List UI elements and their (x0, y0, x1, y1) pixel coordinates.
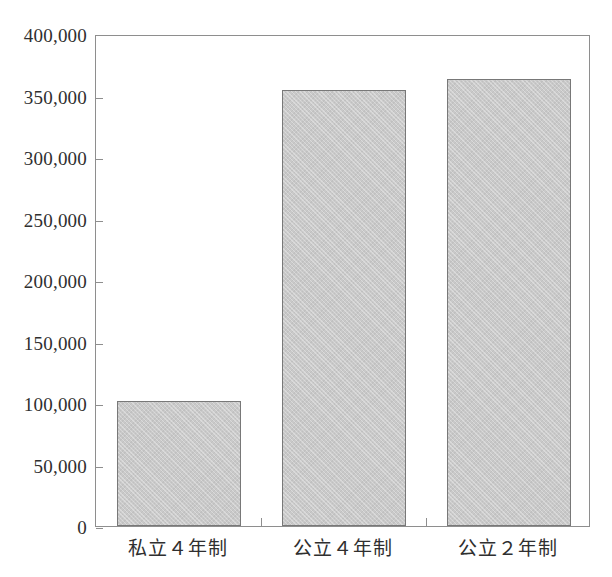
plot-area (95, 35, 590, 527)
y-axis-tick (96, 221, 103, 222)
x-axis-tick (426, 518, 427, 526)
y-axis-tick-label: 300,000 (0, 149, 87, 168)
bar (282, 90, 406, 526)
y-axis-tick-label: 150,000 (0, 334, 87, 353)
bar (447, 79, 571, 526)
bar (117, 401, 241, 526)
y-axis-tick (96, 405, 103, 406)
y-axis-tick-label: 100,000 (0, 395, 87, 414)
x-axis-tick (261, 518, 262, 526)
x-axis-category-label: 公立２年制 (425, 538, 590, 560)
bar-chart: 050,000100,000150,000200,000250,000300,0… (0, 0, 612, 577)
y-axis-tick-label: 50,000 (0, 457, 87, 476)
x-axis-category-label: 私立４年制 (95, 538, 260, 560)
y-axis-tick (96, 528, 103, 529)
y-axis-tick (96, 467, 103, 468)
x-axis-category-label: 公立４年制 (260, 538, 425, 560)
y-axis-tick-label: 200,000 (0, 272, 87, 291)
y-axis-tick-label: 350,000 (0, 88, 87, 107)
y-axis-tick-label: 0 (0, 518, 87, 537)
y-axis-tick (96, 282, 103, 283)
y-axis-tick-label: 250,000 (0, 211, 87, 230)
y-axis-tick (96, 98, 103, 99)
y-axis-tick (96, 344, 103, 345)
y-axis-tick-label: 400,000 (0, 26, 87, 45)
y-axis-tick (96, 159, 103, 160)
